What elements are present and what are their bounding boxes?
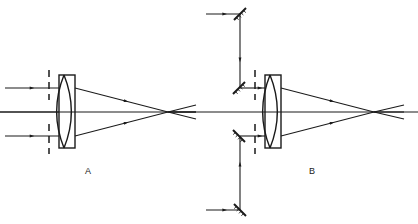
output-ray-1	[75, 112, 168, 136]
bottom-vertical-up-arrow	[239, 162, 242, 167]
diagram-canvas: AB	[0, 0, 418, 224]
input-ray-arrow-2	[30, 135, 35, 138]
panel-b	[170, 8, 418, 216]
bottom-to-lens-horizontal-arrow	[258, 135, 263, 138]
output-ray-0	[75, 88, 168, 112]
output-ray-arrow-1	[124, 122, 129, 125]
diverging-ray-1	[168, 112, 196, 119]
output-ray-1	[281, 112, 374, 136]
diverging-ray-1	[374, 112, 404, 119]
optical-diagram-figure: AB	[0, 0, 418, 224]
input-top-horizontal-arrow	[222, 13, 227, 16]
panel-label-B: B	[309, 166, 315, 176]
diverging-ray-0	[168, 105, 196, 112]
panel-labels: AB	[85, 166, 315, 176]
diverging-ray-0	[374, 105, 404, 112]
input-ray-arrow-0	[30, 87, 35, 90]
output-ray-arrow-0	[330, 99, 335, 102]
top-to-lens-horizontal-arrow	[258, 87, 263, 90]
output-ray-arrow-1	[330, 122, 335, 125]
top-vertical-down-arrow	[239, 58, 242, 63]
panel-a	[0, 70, 196, 154]
panel-label-A: A	[85, 166, 91, 176]
output-ray-arrow-0	[124, 99, 129, 102]
input-bottom-horizontal-arrow	[222, 209, 227, 212]
output-ray-0	[281, 88, 374, 112]
